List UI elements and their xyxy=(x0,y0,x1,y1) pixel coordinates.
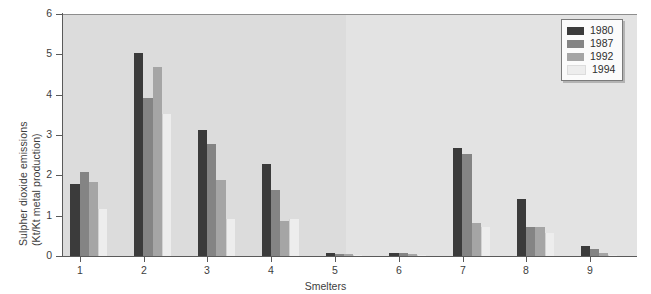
bar-1987-smelter-3 xyxy=(207,144,216,257)
y-tick-label: 2 xyxy=(36,168,52,180)
x-tick-label-6: 6 xyxy=(384,264,414,276)
bar-1980-smelter-1 xyxy=(70,184,79,257)
bars-layer xyxy=(63,15,637,257)
bar-1980-smelter-2 xyxy=(134,53,143,257)
x-tick-mark xyxy=(526,257,527,262)
y-axis-title-line1: Sulpher dioxide emissions xyxy=(17,122,29,246)
x-tick-mark xyxy=(590,257,591,262)
bar-1992-smelter-7 xyxy=(472,223,481,257)
x-tick-mark xyxy=(144,257,145,262)
legend: 1980198719921994 xyxy=(561,19,623,81)
bar-1992-smelter-3 xyxy=(216,180,225,257)
legend-item-1994: 1994 xyxy=(567,63,615,76)
bar-1994-smelter-2 xyxy=(162,114,171,257)
legend-item-1980: 1980 xyxy=(567,24,615,37)
x-tick-label-1: 1 xyxy=(65,264,95,276)
bar-1992-smelter-4 xyxy=(280,221,289,257)
x-tick-mark xyxy=(271,257,272,262)
y-tick-label: 3 xyxy=(36,128,52,140)
plot-area xyxy=(62,14,637,257)
x-tick-label-5: 5 xyxy=(320,264,350,276)
bar-1994-smelter-8 xyxy=(545,233,554,257)
y-tick-label: 1 xyxy=(36,209,52,221)
y-tick-mark xyxy=(56,54,62,55)
y-tick-mark xyxy=(56,95,62,96)
y-tick-mark xyxy=(56,175,62,176)
bar-1980-smelter-3 xyxy=(198,130,207,257)
x-axis-title: Smelters xyxy=(0,280,651,292)
bar-1992-smelter-1 xyxy=(89,182,98,257)
bar-1992-smelter-2 xyxy=(153,67,162,257)
x-tick-mark xyxy=(80,257,81,262)
bar-1992-smelter-8 xyxy=(535,227,544,257)
bar-1994-smelter-4 xyxy=(289,219,298,257)
bar-1987-smelter-8 xyxy=(526,227,535,257)
y-axis-title-line2: (Kt/Kt metal production) xyxy=(30,133,42,246)
bar-1994-smelter-1 xyxy=(98,209,107,257)
bar-1980-smelter-8 xyxy=(517,199,526,257)
y-tick-label: 5 xyxy=(36,47,52,59)
legend-item-1987: 1987 xyxy=(567,37,615,50)
y-tick-mark xyxy=(56,256,62,257)
legend-swatch-1994 xyxy=(567,65,586,75)
legend-label-1994: 1994 xyxy=(592,63,615,76)
x-tick-label-3: 3 xyxy=(192,264,222,276)
x-tick-label-9: 9 xyxy=(575,264,605,276)
bar-1987-smelter-1 xyxy=(80,172,89,257)
y-tick-mark xyxy=(56,14,62,15)
x-tick-mark xyxy=(335,257,336,262)
bar-1980-smelter-4 xyxy=(262,164,271,257)
x-axis-line xyxy=(62,256,637,257)
bar-1987-smelter-4 xyxy=(271,190,280,257)
x-tick-mark xyxy=(207,257,208,262)
bar-1994-smelter-3 xyxy=(226,219,235,257)
x-tick-label-4: 4 xyxy=(256,264,286,276)
legend-swatch-1992 xyxy=(567,53,584,61)
x-tick-label-8: 8 xyxy=(511,264,541,276)
bar-1994-smelter-7 xyxy=(481,227,490,257)
legend-item-1992: 1992 xyxy=(567,50,615,63)
legend-swatch-1987 xyxy=(567,40,584,48)
y-tick-mark xyxy=(56,216,62,217)
bar-1987-smelter-7 xyxy=(462,154,471,257)
y-axis-line xyxy=(62,13,63,257)
x-tick-mark xyxy=(399,257,400,262)
legend-label-1980: 1980 xyxy=(590,24,613,37)
x-tick-mark xyxy=(463,257,464,262)
y-axis-title: Sulpher dioxide emissions (Kt/Kt metal p… xyxy=(0,0,40,270)
y-tick-label: 6 xyxy=(36,7,52,19)
legend-swatch-1980 xyxy=(567,27,584,35)
y-tick-label: 4 xyxy=(36,88,52,100)
y-tick-mark xyxy=(56,135,62,136)
legend-label-1992: 1992 xyxy=(590,50,613,63)
bar-1980-smelter-7 xyxy=(453,148,462,257)
x-tick-label-2: 2 xyxy=(129,264,159,276)
y-tick-label: 0 xyxy=(36,249,52,261)
x-tick-label-7: 7 xyxy=(448,264,478,276)
legend-label-1987: 1987 xyxy=(590,37,613,50)
chart-figure: Sulpher dioxide emissions (Kt/Kt metal p… xyxy=(0,0,651,294)
bar-1987-smelter-2 xyxy=(143,98,152,257)
